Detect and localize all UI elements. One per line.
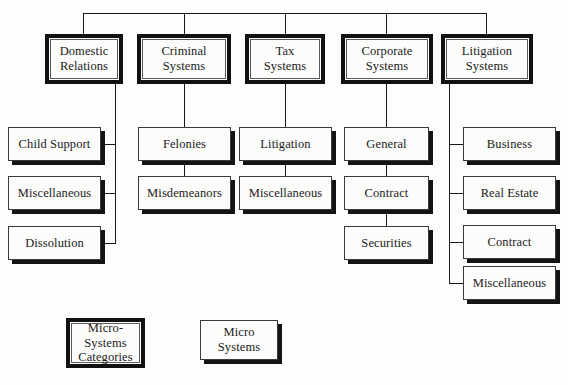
category-label: Criminal Systems bbox=[158, 44, 209, 74]
micro-label: Misdemeanors bbox=[144, 186, 225, 201]
legend-micro-systems: Micro Systems bbox=[200, 320, 278, 360]
legend-label: Micro Systems bbox=[215, 325, 263, 355]
top-bus-drop-criminal bbox=[184, 13, 185, 34]
micro-label: Contract bbox=[485, 235, 535, 250]
micro-label: Business bbox=[484, 137, 535, 152]
category-litigation-systems[interactable]: Litigation Systems bbox=[441, 34, 533, 84]
micro-label: Miscellaneous bbox=[470, 276, 550, 291]
category-domestic-relations[interactable]: Domestic Relations bbox=[45, 34, 123, 84]
micro-label: Miscellaneous bbox=[15, 186, 95, 201]
domestic-connector-child-support bbox=[100, 144, 116, 145]
domestic-connector-misc bbox=[100, 193, 116, 194]
micro-corporate-general[interactable]: General bbox=[344, 127, 429, 161]
corporate-connector-contract bbox=[386, 161, 387, 176]
micro-label: General bbox=[363, 137, 409, 152]
micro-label: Litigation bbox=[257, 137, 313, 152]
micro-tax-litigation[interactable]: Litigation bbox=[239, 127, 332, 161]
micro-label: Felonies bbox=[160, 137, 209, 152]
micro-corporate-contract[interactable]: Contract bbox=[344, 176, 429, 210]
micro-label: Real Estate bbox=[478, 186, 542, 201]
micro-misdemeanors[interactable]: Misdemeanors bbox=[138, 176, 231, 210]
litigation-child-bus bbox=[449, 84, 450, 283]
category-tax-systems[interactable]: Tax Systems bbox=[245, 34, 325, 84]
domestic-child-bus bbox=[115, 84, 116, 244]
category-corporate-systems[interactable]: Corporate Systems bbox=[341, 34, 433, 84]
corporate-connector-general bbox=[386, 84, 387, 127]
micro-label: Securities bbox=[358, 236, 414, 251]
micro-label: Miscellaneous bbox=[246, 186, 326, 201]
litigation-connector-contract bbox=[449, 242, 464, 243]
category-criminal-systems[interactable]: Criminal Systems bbox=[137, 34, 231, 84]
micro-litigation-contract[interactable]: Contract bbox=[463, 225, 556, 259]
category-label: Domestic Relations bbox=[57, 44, 112, 74]
top-bus-drop-domestic bbox=[83, 13, 84, 34]
micro-corporate-securities[interactable]: Securities bbox=[344, 226, 429, 260]
micro-label: Contract bbox=[362, 186, 412, 201]
tax-connector-litigation bbox=[285, 84, 286, 127]
micro-litigation-real-estate[interactable]: Real Estate bbox=[463, 176, 556, 210]
criminal-connector-misdemeanors bbox=[184, 161, 185, 176]
tax-connector-misc bbox=[285, 161, 286, 176]
litigation-connector-business bbox=[449, 144, 464, 145]
top-bus-drop-corporate bbox=[386, 13, 387, 34]
micro-domestic-miscellaneous[interactable]: Miscellaneous bbox=[8, 176, 101, 210]
top-bus-drop-tax bbox=[285, 13, 286, 34]
micro-child-support[interactable]: Child Support bbox=[8, 127, 101, 161]
litigation-connector-real-estate bbox=[449, 193, 464, 194]
criminal-connector-felonies bbox=[184, 84, 185, 127]
category-label: Litigation Systems bbox=[459, 44, 515, 74]
micro-label: Dissolution bbox=[22, 236, 87, 251]
legend-label: Micro- Systems Categories bbox=[75, 321, 135, 365]
legend-micro-systems-categories: Micro- Systems Categories bbox=[66, 318, 145, 368]
category-label: Corporate Systems bbox=[359, 44, 416, 74]
micro-tax-miscellaneous[interactable]: Miscellaneous bbox=[239, 176, 332, 210]
corporate-connector-securities bbox=[386, 210, 387, 226]
org-chart-canvas: Domestic Relations Child Support Miscell… bbox=[0, 0, 568, 385]
micro-label: Child Support bbox=[16, 137, 94, 152]
micro-felonies[interactable]: Felonies bbox=[138, 127, 231, 161]
micro-litigation-business[interactable]: Business bbox=[463, 127, 556, 161]
micro-dissolution[interactable]: Dissolution bbox=[8, 226, 101, 260]
litigation-connector-misc bbox=[449, 283, 464, 284]
domestic-connector-dissolution bbox=[100, 243, 116, 244]
micro-litigation-miscellaneous[interactable]: Miscellaneous bbox=[463, 266, 556, 300]
category-label: Tax Systems bbox=[261, 44, 309, 74]
top-bus-drop-litigation bbox=[486, 13, 487, 34]
